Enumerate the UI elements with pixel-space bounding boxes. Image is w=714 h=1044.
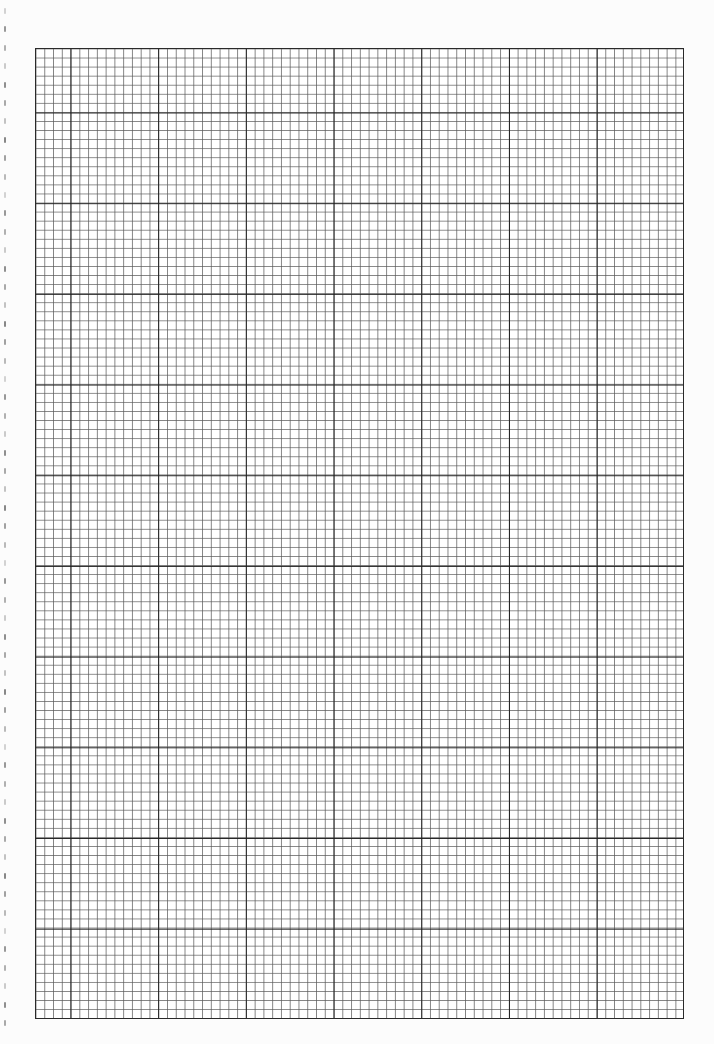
margin-mark: [4, 210, 6, 216]
margin-mark: [4, 689, 6, 695]
margin-mark: [4, 505, 6, 511]
margin-mark: [4, 339, 6, 345]
margin-mark: [4, 155, 6, 161]
margin-mark: [4, 82, 6, 88]
margin-mark: [4, 891, 6, 897]
margin-mark: [4, 762, 6, 768]
margin-mark: [4, 983, 6, 989]
graph-paper-grid: [35, 48, 684, 1019]
margin-mark: [4, 836, 6, 842]
margin-mark: [4, 560, 6, 566]
margin-mark: [4, 597, 6, 603]
left-margin-scan-marks: [3, 0, 9, 1044]
margin-mark: [4, 1002, 6, 1008]
margin-mark: [4, 266, 6, 272]
margin-mark: [4, 413, 6, 419]
margin-mark: [4, 302, 6, 308]
margin-mark: [4, 670, 6, 676]
margin-mark: [4, 1020, 6, 1026]
margin-mark: [4, 192, 6, 198]
margin-mark: [4, 965, 6, 971]
margin-mark: [4, 358, 6, 364]
margin-mark: [4, 928, 6, 934]
margin-mark: [4, 615, 6, 621]
margin-mark: [4, 45, 6, 51]
margin-mark: [4, 781, 6, 787]
margin-mark: [4, 100, 6, 106]
margin-mark: [4, 542, 6, 548]
margin-mark: [4, 634, 6, 640]
margin-mark: [4, 523, 6, 529]
margin-mark: [4, 707, 6, 713]
margin-mark: [4, 818, 6, 824]
margin-mark: [4, 247, 6, 253]
margin-mark: [4, 854, 6, 860]
margin-mark: [4, 946, 6, 952]
margin-mark: [4, 229, 6, 235]
margin-mark: [4, 63, 6, 69]
margin-mark: [4, 468, 6, 474]
margin-mark: [4, 394, 6, 400]
margin-mark: [4, 652, 6, 658]
margin-mark: [4, 174, 6, 180]
margin-mark: [4, 910, 6, 916]
margin-mark: [4, 8, 6, 14]
margin-mark: [4, 321, 6, 327]
margin-mark: [4, 137, 6, 143]
margin-mark: [4, 744, 6, 750]
margin-mark: [4, 799, 6, 805]
margin-mark: [4, 450, 6, 456]
margin-mark: [4, 118, 6, 124]
margin-mark: [4, 873, 6, 879]
margin-mark: [4, 431, 6, 437]
margin-mark: [4, 578, 6, 584]
margin-mark: [4, 284, 6, 290]
margin-mark: [4, 376, 6, 382]
margin-mark: [4, 26, 6, 32]
margin-mark: [4, 486, 6, 492]
margin-mark: [4, 726, 6, 732]
